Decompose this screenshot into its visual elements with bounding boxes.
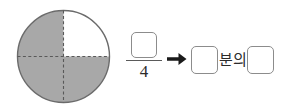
fraction-bar — [126, 60, 162, 61]
numerator-input-box[interactable] — [131, 32, 157, 58]
numerator-word-input-box[interactable] — [247, 46, 274, 74]
bunui-label: 분의 — [218, 52, 247, 68]
right-arrow-icon — [166, 48, 188, 70]
fraction-circle-diagram — [16, 9, 111, 104]
fraction: 4 — [124, 32, 164, 82]
denominator-word-input-box[interactable] — [191, 46, 218, 74]
denominator-value: 4 — [140, 62, 149, 82]
fraction-expression: 4 분의 — [124, 16, 284, 96]
fraction-reading: 분의 — [191, 46, 274, 74]
circle-unshaded-quadrant — [64, 9, 112, 57]
fraction-worksheet: 4 분의 — [0, 0, 287, 111]
